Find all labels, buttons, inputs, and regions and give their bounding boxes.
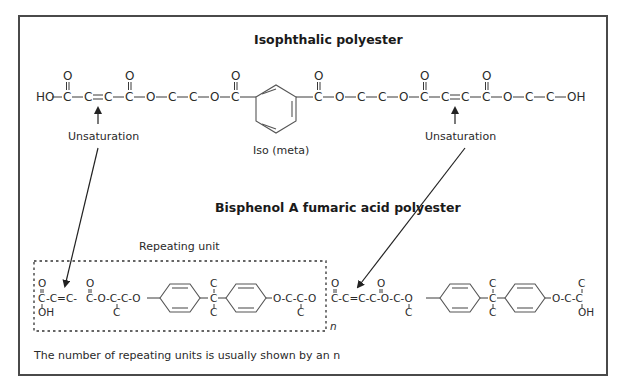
- svg-text:C: C: [378, 90, 386, 104]
- svg-text:C: C: [482, 90, 490, 104]
- svg-text:OH: OH: [38, 306, 54, 318]
- svg-text:O: O: [231, 69, 240, 83]
- benzene-ring-2: [226, 284, 266, 312]
- svg-text:O: O: [146, 90, 155, 104]
- benzene-ring-3: [440, 284, 480, 312]
- atom-ho-left: HO: [36, 90, 54, 104]
- svg-text:O: O: [420, 69, 429, 83]
- footnote: The number of repeating units is usually…: [33, 349, 340, 362]
- svg-text:C: C: [314, 90, 322, 104]
- svg-text:C: C: [210, 306, 217, 318]
- svg-text:C-C=C-C-O-C-O: C-C=C-C-O-C-O: [331, 292, 413, 304]
- svg-text:C: C: [297, 306, 304, 318]
- repeating-unit-label: Repeating unit: [139, 240, 220, 253]
- svg-text:O: O: [399, 90, 408, 104]
- svg-text:C: C: [210, 277, 217, 289]
- svg-text:O: O: [125, 69, 134, 83]
- svg-text:C: C: [125, 90, 133, 104]
- svg-text:O-C-C: O-C-C: [552, 292, 583, 304]
- svg-text:O: O: [210, 90, 219, 104]
- benzene-ring-1: [160, 284, 200, 312]
- isophthalic-chain: HO C C C C O C C O C O O O: [36, 69, 585, 133]
- isophthalic-title: Isophthalic polyester: [254, 32, 404, 47]
- svg-text:O: O: [503, 90, 512, 104]
- svg-text:C: C: [578, 277, 585, 289]
- svg-text:C: C: [63, 90, 71, 104]
- polyester-diagram: Isophthalic polyester HO C C C C O C C O…: [0, 0, 622, 392]
- svg-text:C: C: [113, 306, 120, 318]
- svg-text:O: O: [86, 277, 94, 289]
- figure-frame: [19, 16, 607, 375]
- svg-text:O: O: [482, 69, 491, 83]
- unsaturation-label-left: Unsaturation: [68, 130, 139, 143]
- pointer-arrow-left: [65, 148, 98, 286]
- repeat-subscript-n: n: [330, 320, 337, 332]
- svg-text:C: C: [489, 277, 496, 289]
- svg-text:C: C: [38, 292, 45, 304]
- svg-text:C: C: [189, 90, 197, 104]
- svg-text:O: O: [63, 69, 72, 83]
- pointer-arrow-right: [358, 148, 465, 287]
- svg-text:OH: OH: [578, 306, 594, 318]
- svg-text:C: C: [104, 90, 112, 104]
- svg-text:O: O: [335, 90, 344, 104]
- svg-text:C: C: [210, 292, 217, 304]
- svg-text:C: C: [525, 90, 533, 104]
- svg-text:C: C: [546, 90, 554, 104]
- svg-text:C: C: [420, 90, 428, 104]
- ring-label-iso-meta: Iso (meta): [253, 144, 309, 157]
- bisphenol-chain: O C OH -C=C- O C-O-C-C-O C C C C O-C: [38, 277, 594, 318]
- svg-text:C: C: [405, 306, 412, 318]
- svg-text:C: C: [168, 90, 176, 104]
- benzene-ring-meta: [256, 85, 296, 133]
- svg-text:C-O-C-C-O: C-O-C-C-O: [86, 292, 141, 304]
- svg-text:C: C: [231, 90, 239, 104]
- svg-text:C: C: [441, 90, 449, 104]
- benzene-ring-4: [505, 284, 545, 312]
- svg-text:C: C: [489, 292, 496, 304]
- svg-text:O: O: [331, 277, 339, 289]
- svg-text:O: O: [377, 277, 385, 289]
- svg-text:C: C: [489, 306, 496, 318]
- svg-text:O: O: [314, 69, 323, 83]
- svg-text:O-C-C-O: O-C-C-O: [273, 292, 316, 304]
- atom-oh-right: OH: [567, 90, 585, 104]
- svg-text:O: O: [38, 277, 46, 289]
- bisphenol-title: Bisphenol A fumaric acid polyester: [215, 200, 462, 215]
- svg-text:C: C: [461, 90, 469, 104]
- svg-text:-C=C-: -C=C-: [46, 292, 77, 304]
- unsaturation-label-right: Unsaturation: [425, 130, 496, 143]
- svg-text:C: C: [357, 90, 365, 104]
- svg-text:C: C: [84, 90, 92, 104]
